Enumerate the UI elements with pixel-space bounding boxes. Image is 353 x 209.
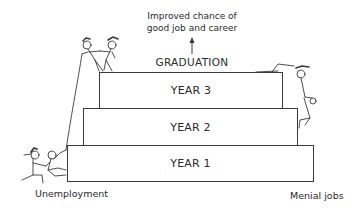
stick-figure-top-left-b-icon [100, 37, 118, 71]
stick-figure-bottom-left-b-icon [46, 150, 66, 176]
diagram-canvas: Improved chance of good job and career G… [0, 0, 353, 209]
stick-figure-right-climber-icon [256, 64, 316, 128]
stick-figure-top-left-a-icon [82, 38, 103, 71]
outcome-menial-jobs: Menial jobs [290, 190, 344, 201]
outcome-unemployment: Unemployment [35, 188, 108, 199]
stick-figures [0, 0, 353, 209]
stick-figure-bottom-left-a-icon [22, 148, 46, 183]
rope-icon [66, 54, 82, 150]
